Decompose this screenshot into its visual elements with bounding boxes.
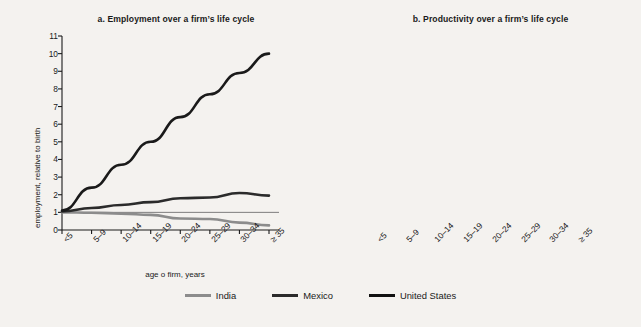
legend-item-mexico[interactable]: Mexico	[272, 290, 333, 301]
x-tick-label: 5–9	[404, 227, 421, 244]
series-line-united-states	[62, 54, 269, 211]
panel-a-title: a. Employment over a firm’s life cycle	[0, 14, 330, 24]
panel-a-plot-area	[62, 36, 279, 230]
panel-a-chart-svg	[62, 36, 279, 230]
x-tick-label: 25–29	[519, 221, 543, 245]
y-tick-label: 10	[32, 49, 58, 59]
chart-legend: IndiaMexicoUnited States	[0, 290, 641, 301]
y-tick-label: 9	[32, 66, 58, 76]
y-tick-label: 2	[32, 190, 58, 200]
x-tick-label: <5	[375, 230, 389, 244]
legend-swatch-icon	[272, 294, 298, 297]
panel-a-x-axis-label: age o firm, years	[60, 270, 290, 279]
y-tick-label: 0	[32, 225, 58, 235]
y-tick-label: 6	[32, 119, 58, 129]
panel-a-employment: a. Employment over a firm’s life cycle e…	[0, 0, 330, 285]
y-tick-label: 1	[32, 207, 58, 217]
x-tick-label: 30–34	[547, 221, 571, 245]
legend-item-united-states[interactable]: United States	[369, 290, 456, 301]
y-tick-label: 11	[32, 31, 58, 41]
y-tick-label: 5	[32, 137, 58, 147]
legend-label: United States	[400, 290, 456, 301]
legend-label: Mexico	[303, 290, 333, 301]
x-tick-label: 10–14	[432, 221, 456, 245]
legend-swatch-icon	[185, 294, 211, 297]
panel-b-productivity: b. Productivity over a firm’s life cycle…	[330, 0, 641, 285]
y-tick-label: 7	[32, 102, 58, 112]
legend-label: India	[216, 290, 236, 301]
x-tick-label: ≥ 35	[576, 226, 595, 245]
y-tick-label: 4	[32, 154, 58, 164]
panel-b-title: b. Productivity over a firm’s life cycle	[330, 14, 641, 24]
legend-swatch-icon	[369, 294, 395, 297]
x-tick-label: 20–24	[490, 221, 514, 245]
figure: a. Employment over a firm’s life cycle e…	[0, 0, 641, 327]
x-tick-label: <5	[61, 230, 75, 244]
x-tick-label: 15–19	[461, 221, 485, 245]
series-line-mexico	[62, 193, 269, 212]
y-tick-label: 8	[32, 84, 58, 94]
legend-item-india[interactable]: India	[185, 290, 236, 301]
y-tick-label: 3	[32, 172, 58, 182]
